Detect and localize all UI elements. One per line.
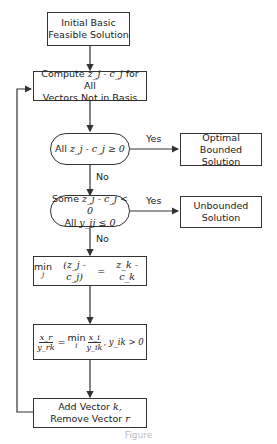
text: min <box>68 333 86 342</box>
min-operator: min j <box>34 262 52 280</box>
text: All <box>65 217 77 228</box>
condition: , y_ik > 0 <box>103 336 143 348</box>
min-operator: min i <box>68 333 86 351</box>
variable: r <box>125 413 130 424</box>
figure-caption: Figure <box>0 430 277 440</box>
node-text-line: Compute z_j - c_j for All <box>34 68 146 92</box>
math-expression: z_j - c_j <box>88 68 123 79</box>
node-text-line: Some z_j - c_j < 0 <box>51 193 129 217</box>
node-text-line: Vectors Not in Basis <box>43 92 137 104</box>
node-text-line: Remove Vector r <box>50 413 129 425</box>
text: Remove Vector <box>50 413 122 424</box>
entering-vector-box: min j (z_j - c_j) = z_k - c_k <box>33 256 147 286</box>
subscript: i <box>75 342 77 351</box>
node-text-line: All y_ij ≤ 0 <box>65 217 116 229</box>
math-expression: z_j - c_j ≥ 0 <box>70 143 125 154</box>
node-text-line: Add Vector k, <box>58 401 122 413</box>
text: min <box>34 262 52 271</box>
denominator: y_rk <box>37 343 54 352</box>
optimality-test-decision: All z_j - c_j ≥ 0 <box>50 133 130 165</box>
node-text-line: All z_j - c_j ≥ 0 <box>55 143 125 155</box>
optimal-bounded-solution-box: Optimal Bounded Solution <box>180 133 262 166</box>
node-text-line: Solution <box>202 156 241 168</box>
text: Add Vector <box>58 401 110 412</box>
numerator: x_i <box>88 333 101 343</box>
numerator: x_r <box>39 333 53 343</box>
yes-label-unbounded: Yes <box>146 195 161 206</box>
node-text-line: Unbounded <box>194 200 249 212</box>
fraction-xr-yrk: x_r y_rk <box>37 333 54 352</box>
math-expression: z_j - c_j < 0 <box>82 193 128 216</box>
text: Compute <box>41 68 84 79</box>
node-text-line: Optimal Bounded <box>181 132 261 156</box>
denominator: y_ik <box>86 343 102 352</box>
math-expression: y_ij ≤ 0 <box>79 217 115 228</box>
subscript: j <box>42 271 44 280</box>
ratio-test-box: x_r y_rk = min i x_i y_ik , y_ik > 0 <box>33 324 147 360</box>
variable: k, <box>113 401 122 412</box>
no-label-unbounded: No <box>96 233 109 244</box>
text: All <box>55 143 67 154</box>
unboundedness-test-decision: Some z_j - c_j < 0 All y_ij ≤ 0 <box>50 195 130 227</box>
math-expression: (z_j - c_j) <box>55 259 94 283</box>
no-label-optimal: No <box>96 171 109 182</box>
unbounded-solution-box: Unbounded Solution <box>180 196 262 228</box>
equals-sign: = <box>58 336 66 348</box>
initial-basic-feasible-solution-box: Initial Basic Feasible Solution <box>47 12 130 46</box>
text: Some <box>52 193 79 204</box>
math-expression: z_k - c_k <box>108 259 146 283</box>
node-text-line: Solution <box>202 212 241 224</box>
yes-label-optimal: Yes <box>146 133 161 144</box>
pivot-basis-change-box: Add Vector k, Remove Vector r <box>33 398 147 428</box>
compute-reduced-costs-box: Compute z_j - c_j for All Vectors Not in… <box>33 71 147 101</box>
node-text-line: Initial Basic <box>61 17 115 29</box>
fraction-xi-yik: x_i y_ik <box>86 333 102 352</box>
equals-sign: = <box>97 265 105 277</box>
node-text-line: Feasible Solution <box>48 29 128 41</box>
